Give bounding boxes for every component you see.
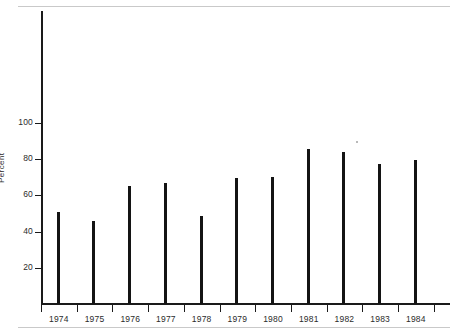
x-axis-tick (434, 305, 435, 312)
top-rule (18, 6, 450, 7)
y-axis-tick (35, 268, 42, 269)
y-axis-line (41, 11, 43, 305)
x-axis-tick-label: 1981 (289, 314, 329, 324)
bar (271, 177, 274, 304)
x-axis-tick-label: 1980 (253, 314, 293, 324)
bar (57, 212, 60, 304)
bar (164, 183, 167, 304)
bar (128, 186, 131, 304)
x-axis-tick-label: 1975 (75, 314, 115, 324)
x-axis-tick-label: 1976 (110, 314, 150, 324)
x-axis-tick (220, 305, 221, 312)
x-axis-line (41, 303, 450, 305)
y-axis-tick (35, 195, 42, 196)
chart-figure: Percent 20406080100 19741975197619771978… (0, 0, 457, 333)
x-axis-tick-label: 1977 (146, 314, 186, 324)
y-axis-tick (35, 159, 42, 160)
bar (92, 221, 95, 304)
y-axis-tick (35, 123, 42, 124)
y-axis-tick (35, 232, 42, 233)
x-axis-tick (398, 305, 399, 312)
bar (235, 178, 238, 304)
x-axis-tick (77, 305, 78, 312)
bar (342, 152, 345, 304)
bottom-rule (18, 327, 450, 328)
stray-speck-marker (356, 141, 358, 143)
y-axis-tick-label: 40 (0, 227, 33, 236)
x-axis-tick-label: 1974 (39, 314, 79, 324)
y-axis-tick-label: 100 (0, 118, 33, 127)
y-axis-tick-label: 20 (0, 263, 33, 272)
y-axis-tick-label: 80 (0, 154, 33, 163)
bar (200, 216, 203, 304)
x-axis-tick (112, 305, 113, 312)
x-axis-tick-label: 1984 (396, 314, 436, 324)
x-axis-tick (184, 305, 185, 312)
bar (378, 164, 381, 304)
x-axis-tick (327, 305, 328, 312)
x-axis-tick-label: 1979 (217, 314, 257, 324)
bar (414, 160, 417, 304)
y-axis-tick-label: 60 (0, 190, 33, 199)
x-axis-tick (291, 305, 292, 312)
x-axis-tick-label: 1978 (182, 314, 222, 324)
x-axis-tick (148, 305, 149, 312)
x-axis-tick-label: 1982 (324, 314, 364, 324)
x-axis-tick-label: 1983 (360, 314, 400, 324)
x-axis-tick (362, 305, 363, 312)
x-axis-tick (41, 305, 42, 312)
bar (307, 149, 310, 304)
x-axis-tick (255, 305, 256, 312)
